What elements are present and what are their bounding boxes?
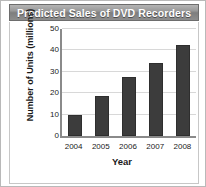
x-axis-tick-labels: 20042005200620072008 bbox=[60, 142, 196, 151]
bar-slot bbox=[62, 29, 89, 136]
bar-slot bbox=[89, 29, 116, 136]
x-axis-label: Year bbox=[48, 156, 196, 167]
y-axis-label: Number of Units (millions) bbox=[25, 7, 35, 123]
x-axis-tick-label: 2004 bbox=[60, 142, 87, 151]
bar-slot bbox=[116, 29, 143, 136]
plot-area: 01020304050 bbox=[60, 29, 196, 138]
bar[interactable] bbox=[149, 63, 163, 136]
y-axis-tick-label: 30 bbox=[50, 66, 59, 75]
y-axis-tick-label: 50 bbox=[50, 24, 59, 33]
y-axis-tick-label: 10 bbox=[50, 109, 59, 118]
bar-slot bbox=[142, 29, 169, 136]
bar[interactable] bbox=[95, 96, 109, 136]
x-axis-tick-label: 2007 bbox=[142, 142, 169, 151]
y-axis-tick-label: 40 bbox=[50, 45, 59, 54]
bar[interactable] bbox=[68, 115, 82, 136]
x-axis-tick-label: 2005 bbox=[87, 142, 114, 151]
x-axis-tick-label: 2008 bbox=[169, 142, 196, 151]
chart-title-bar: Predicted Sales of DVD Recorders bbox=[9, 4, 199, 21]
y-axis-tick-label: 0 bbox=[55, 131, 59, 140]
bar-series bbox=[62, 29, 196, 136]
page-title: Predicted Sales of DVD Recorders bbox=[17, 7, 191, 19]
plot-wrapper: 01020304050 bbox=[48, 29, 196, 138]
bar-slot bbox=[169, 29, 196, 136]
bar[interactable] bbox=[122, 77, 136, 136]
x-axis-tick-label: 2006 bbox=[114, 142, 141, 151]
chart-container: Predicted Sales of DVD Recorders Number … bbox=[0, 0, 206, 187]
bar[interactable] bbox=[176, 45, 190, 136]
y-axis-tick-label: 20 bbox=[50, 88, 59, 97]
chart-card: Number of Units (millions) 01020304050 2… bbox=[9, 22, 199, 184]
